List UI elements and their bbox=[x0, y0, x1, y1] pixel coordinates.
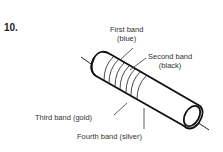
leader-third-band bbox=[114, 103, 127, 115]
label-second-band: Second band (black) bbox=[148, 52, 192, 70]
second-band-text: Second band bbox=[148, 52, 192, 61]
first-band-color: (blue) bbox=[110, 34, 143, 43]
second-band-color: (black) bbox=[148, 61, 192, 70]
label-fourth-band: Fourth band (silver) bbox=[77, 132, 142, 141]
leader-first-band bbox=[120, 48, 133, 60]
label-third-band: Third band (gold) bbox=[35, 113, 92, 122]
leader-second-band bbox=[130, 58, 146, 70]
first-band-text: First band bbox=[110, 25, 143, 34]
label-first-band: First band (blue) bbox=[110, 25, 143, 43]
resistor-diagram bbox=[0, 0, 223, 152]
